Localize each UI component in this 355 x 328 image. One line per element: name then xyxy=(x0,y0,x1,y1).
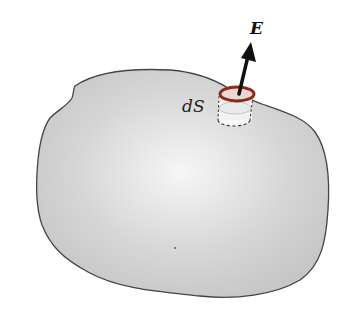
pillbox-element xyxy=(218,87,254,126)
gaussian-surface-diagram xyxy=(0,0,355,328)
field-vector-label: E xyxy=(250,18,263,38)
pillbox-top-rim xyxy=(220,87,254,101)
electric-field-arrow xyxy=(239,42,256,94)
surface-element-label: dS xyxy=(182,96,205,116)
surface-dot xyxy=(174,247,176,249)
